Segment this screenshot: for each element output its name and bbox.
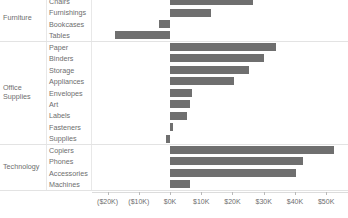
bar-bookcases[interactable] <box>159 20 170 28</box>
axis-tick-label: $50K <box>318 197 334 206</box>
bar-fasteners[interactable] <box>170 123 173 131</box>
axis-tick-label: $10K <box>193 197 209 206</box>
axis-tick <box>264 192 265 195</box>
bar-paper[interactable] <box>170 43 276 51</box>
bar-storage[interactable] <box>170 66 249 74</box>
bar-binders[interactable] <box>170 54 264 62</box>
axis-line <box>92 192 348 193</box>
group-label-office-supplies[interactable]: OfficeSupplies <box>0 84 46 101</box>
label-column-divider-left <box>46 0 47 190</box>
axis-tick <box>232 192 233 195</box>
group-label-technology[interactable]: Technology <box>0 163 46 172</box>
axis-tick-label: ($20K) <box>97 197 118 206</box>
bar-tables[interactable] <box>115 31 170 39</box>
bar-accessories[interactable] <box>170 169 296 177</box>
bar-appliances[interactable] <box>170 77 234 85</box>
axis-tick-label: $40K <box>287 197 303 206</box>
bar-art[interactable] <box>170 100 190 108</box>
axis-tick-label: $20K <box>224 197 240 206</box>
axis-tick <box>201 192 202 195</box>
axis-tick-label: $30K <box>256 197 272 206</box>
bar-machines[interactable] <box>170 180 190 188</box>
bar-chairs[interactable] <box>170 0 253 5</box>
bar-furnishings[interactable] <box>170 9 211 17</box>
bar-labels[interactable] <box>170 112 187 120</box>
bar-envelopes[interactable] <box>170 89 192 97</box>
profit-by-subcategory-bar-chart: ChairsFurnishingsBookcasesTablesFurnitur… <box>0 0 348 218</box>
axis-tick <box>139 192 140 195</box>
axis-tick-label: $0K <box>164 197 176 206</box>
axis-tick <box>170 192 171 195</box>
bar-supplies[interactable] <box>166 135 170 143</box>
axis-tick <box>295 192 296 195</box>
plot-area <box>92 0 348 192</box>
bar-copiers[interactable] <box>170 146 334 154</box>
group-label-furniture[interactable]: Furniture <box>0 14 46 23</box>
bar-phones[interactable] <box>170 157 303 165</box>
axis-tick <box>326 192 327 195</box>
x-axis: ($20K)($10K)$0K$10K$20K$30K$40K$50K <box>0 192 348 218</box>
axis-tick-label: ($10K) <box>128 197 149 206</box>
axis-tick <box>108 192 109 195</box>
